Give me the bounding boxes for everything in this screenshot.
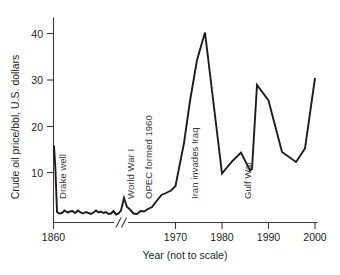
y-tick-label-20: 20 xyxy=(31,121,43,133)
x-tick-label-1860: 1860 xyxy=(42,231,66,243)
chart-figure: 40 30 20 10 1860 1970 1980 1990 2000 Dra… xyxy=(0,0,340,275)
series-crude-oil-price xyxy=(54,33,315,215)
annotation-world-war-i: World War I xyxy=(125,149,136,199)
x-tick-label-1980: 1980 xyxy=(210,231,234,243)
y-tick-label-40: 40 xyxy=(31,28,43,40)
y-tick-label-10: 10 xyxy=(31,167,43,179)
x-tick-label-2000: 2000 xyxy=(303,231,327,243)
annotation-iran-invades-iraq: Iran invades Iraq xyxy=(189,128,200,199)
x-tick-label-1990: 1990 xyxy=(257,231,281,243)
y-tick-label-30: 30 xyxy=(31,74,43,86)
annotation-drake-well: Drake well xyxy=(57,154,68,199)
y-axis-title: Crude oil price/bbl, U.S. dollars xyxy=(9,55,21,200)
annotation-opec-formed: OPEC formed 1960 xyxy=(143,115,154,199)
x-axis-title: Year (not to scale) xyxy=(143,249,228,261)
annotation-gulf-war: Gulf War xyxy=(242,161,253,199)
x-tick-label-1970: 1970 xyxy=(164,231,188,243)
axis-break-marker xyxy=(114,218,128,228)
crude-oil-price-line-chart: 40 30 20 10 1860 1970 1980 1990 2000 Dra… xyxy=(0,0,340,275)
